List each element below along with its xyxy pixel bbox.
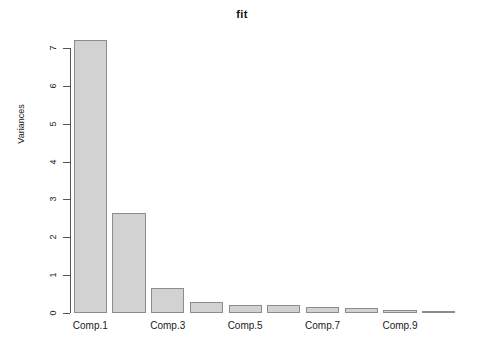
bars-layer — [0, 0, 484, 352]
bar — [190, 302, 223, 313]
bar — [383, 310, 416, 313]
x-axis-tick-label: Comp.1 — [73, 320, 108, 331]
x-axis-tick-label: Comp.3 — [150, 320, 185, 331]
bar — [112, 213, 145, 313]
x-axis-tick-label: Comp.9 — [382, 320, 417, 331]
bar — [267, 305, 300, 313]
x-axis-tick-label: Comp.7 — [305, 320, 340, 331]
bar — [306, 307, 339, 313]
bar — [229, 305, 262, 313]
bar — [151, 288, 184, 313]
bar — [74, 40, 107, 313]
x-axis-tick-label: Comp.5 — [228, 320, 263, 331]
bar — [345, 308, 378, 313]
screeplot-figure: fit Variances 01234567 Comp.1Comp.3Comp.… — [0, 0, 484, 352]
bar — [422, 311, 455, 313]
